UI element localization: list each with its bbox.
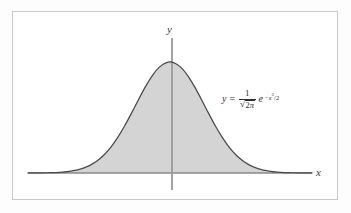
equation-equals: = [229,94,235,104]
exponent-power: 2 [272,92,275,97]
equation-fraction: 1 √ 2π [239,89,255,110]
fraction-numerator: 1 [243,89,252,99]
square-root: √ 2π [240,100,254,110]
exponential-base: e [259,94,263,104]
radicand-pi: π [250,100,254,110]
x-axis-label: x [316,167,321,178]
figure-root: y x y = 1 √ 2π e−x2/2 [0,0,351,213]
exponent-expression: −x2/2 [265,93,279,102]
y-axis-label: y [167,24,172,35]
equation-annotation: y = 1 √ 2π e−x2/2 [222,89,279,110]
equation-lhs: y [222,94,226,104]
sqrt-radicand: 2π [245,100,255,110]
exponent-denominator: 2 [276,94,279,101]
gaussian-plot [0,0,351,213]
fraction-denominator: √ 2π [239,100,255,110]
curve-fill-area [28,62,312,173]
